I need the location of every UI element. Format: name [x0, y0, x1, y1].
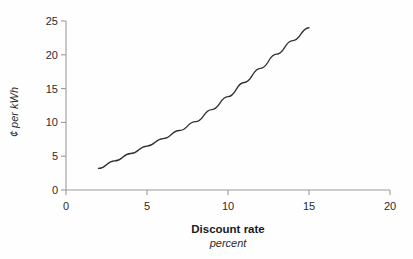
y-axis-ticks: [61, 21, 66, 190]
data-line-series: [98, 28, 309, 169]
axis-lines: [66, 21, 390, 190]
x-axis-title: Discount rate: [191, 222, 265, 236]
y-axis-tick-label: 10: [38, 117, 58, 128]
y-axis-tick-label: 0: [38, 185, 58, 196]
x-axis-ticks: [66, 190, 390, 195]
chart-plot-area: [0, 0, 413, 259]
x-axis-tick-label: 0: [63, 201, 69, 212]
x-axis-title-block: Discount rate percent: [191, 222, 265, 251]
x-axis-subtitle: percent: [191, 236, 265, 250]
x-axis-tick-label: 20: [384, 201, 396, 212]
x-axis-tick-label: 5: [144, 201, 150, 212]
x-axis-tick-label: 15: [303, 201, 315, 212]
y-axis-tick-label: 20: [38, 49, 58, 60]
chart-container: 0510152025 05101520 ¢ per kWh Discount r…: [0, 0, 413, 259]
y-axis-tick-label: 15: [38, 83, 58, 94]
y-axis-tick-label: 25: [38, 16, 58, 27]
y-axis-title: ¢ per kWh: [8, 87, 20, 137]
y-axis-tick-label: 5: [38, 151, 58, 162]
x-axis-tick-label: 10: [222, 201, 234, 212]
